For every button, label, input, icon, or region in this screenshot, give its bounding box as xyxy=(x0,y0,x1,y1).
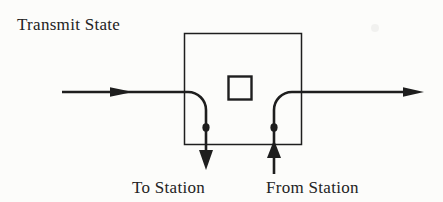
inner-square xyxy=(229,77,252,100)
from-station-arrowhead-icon xyxy=(267,140,281,158)
input-arrowhead-icon xyxy=(110,87,133,97)
output-arrowhead-icon xyxy=(403,87,424,97)
figure-canvas: Transmit State To Station From Station xyxy=(0,0,443,202)
junction-dot-right xyxy=(270,123,277,131)
from-station-label: From Station xyxy=(266,179,359,198)
scan-artifact xyxy=(371,24,379,32)
switch-box xyxy=(185,34,302,145)
from-station-line xyxy=(274,92,403,174)
junction-dot-left xyxy=(202,123,209,131)
figure-title: Transmit State xyxy=(17,16,120,35)
to-station-label: To Station xyxy=(132,179,205,198)
to-station-arrowhead-icon xyxy=(199,150,213,170)
